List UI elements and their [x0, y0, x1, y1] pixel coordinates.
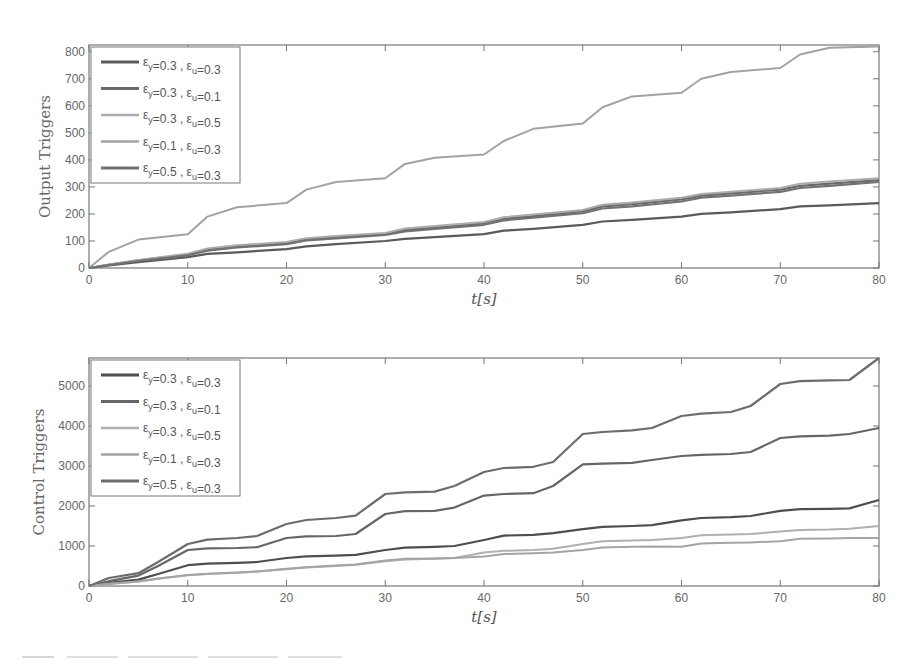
- y-tick-label: 200: [65, 207, 85, 221]
- y-tick-label: 1000: [58, 539, 85, 553]
- y-tick-label: 400: [65, 153, 85, 167]
- series-line-1: [89, 203, 879, 268]
- x-axis-label: t[s]: [471, 608, 497, 626]
- y-tick-label: 0: [78, 261, 85, 275]
- y-tick-label: 500: [65, 126, 85, 140]
- y-axis-label: Output Triggers: [36, 95, 54, 218]
- y-tick-label: 800: [65, 45, 85, 59]
- x-tick-label: 80: [872, 591, 886, 605]
- x-tick-label: 50: [576, 273, 590, 287]
- figure-caption-cropped: [22, 652, 342, 659]
- x-tick-label: 20: [280, 273, 294, 287]
- x-tick-label: 0: [86, 591, 93, 605]
- x-tick-label: 20: [280, 591, 294, 605]
- y-tick-label: 3000: [58, 459, 85, 473]
- y-tick-label: 100: [65, 234, 85, 248]
- x-tick-label: 10: [181, 591, 195, 605]
- y-tick-label: 700: [65, 72, 85, 86]
- y-tick-label: 600: [65, 99, 85, 113]
- control-triggers-chart: 01020304050607080010002000300040005000t[…: [0, 314, 920, 634]
- x-tick-label: 40: [477, 591, 491, 605]
- x-tick-label: 10: [181, 273, 195, 287]
- series-line-5: [89, 182, 879, 268]
- x-tick-label: 70: [774, 273, 788, 287]
- y-tick-label: 4000: [58, 419, 85, 433]
- control-triggers-plot: 01020304050607080010002000300040005000t[…: [0, 314, 920, 634]
- x-tick-label: 80: [872, 273, 886, 287]
- y-tick-label: 0: [78, 579, 85, 593]
- legend: εy=0.3 , εu=0.3εy=0.3 , εu=0.1εy=0.3 , ε…: [91, 47, 240, 183]
- x-tick-label: 30: [379, 273, 393, 287]
- x-tick-label: 40: [477, 273, 491, 287]
- y-tick-label: 300: [65, 180, 85, 194]
- x-tick-label: 70: [774, 591, 788, 605]
- x-axis-label: t[s]: [471, 290, 497, 308]
- x-tick-label: 0: [86, 273, 93, 287]
- y-tick-label: 2000: [58, 499, 85, 513]
- series-line-4: [89, 538, 879, 586]
- x-tick-label: 60: [675, 273, 689, 287]
- output-triggers-plot: 0102030405060708001002003004005006007008…: [0, 0, 920, 320]
- x-tick-label: 50: [576, 591, 590, 605]
- output-triggers-chart: 0102030405060708001002003004005006007008…: [0, 0, 920, 320]
- x-tick-label: 60: [675, 591, 689, 605]
- y-axis-label: Control Triggers: [30, 409, 48, 536]
- x-tick-label: 30: [379, 591, 393, 605]
- legend: εy=0.3 , εu=0.3εy=0.3 , εu=0.1εy=0.3 , ε…: [91, 360, 240, 496]
- y-tick-label: 5000: [58, 379, 85, 393]
